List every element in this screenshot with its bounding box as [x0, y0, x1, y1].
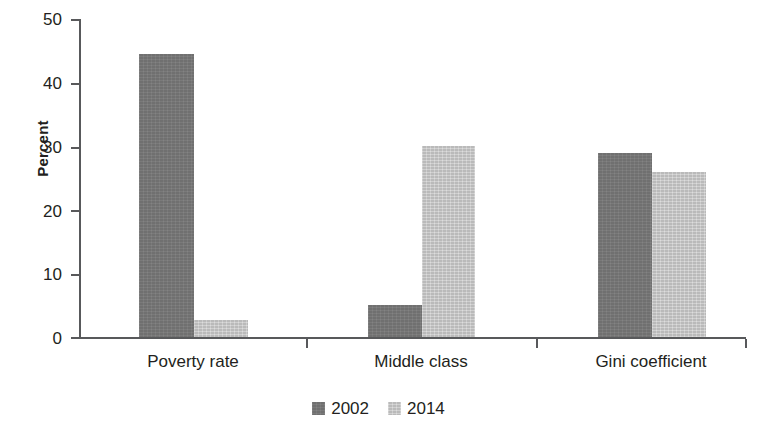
legend: 2002 2014: [0, 400, 757, 417]
x-category-label-poverty-rate: Poverty rate: [113, 352, 273, 372]
plot-area: [0, 0, 757, 337]
bar-middle-class-2002: [368, 305, 422, 337]
legend-swatch-icon-2014: [388, 402, 401, 415]
x-tick-mark-group-3: [745, 339, 747, 348]
legend-label-2002: 2002: [331, 400, 369, 417]
x-tick-mark-group-1: [306, 339, 308, 348]
legend-item-2002: 2002: [312, 400, 369, 417]
bar-gini-coefficient-2014: [652, 172, 706, 337]
bar-poverty-rate-2002: [139, 54, 194, 337]
y-tick-mark-0: [71, 337, 79, 339]
x-category-label-gini-coefficient: Gini coefficient: [561, 352, 741, 372]
bar-chart: Percent 50 40 30 20 10 0 Poverty rate Mi…: [0, 0, 757, 429]
bar-poverty-rate-2014: [194, 320, 248, 337]
legend-swatch-icon-2002: [312, 402, 325, 415]
legend-item-2014: 2014: [388, 400, 445, 417]
bar-middle-class-2014: [422, 146, 475, 337]
x-category-label-middle-class: Middle class: [341, 352, 501, 372]
x-tick-mark-group-2: [536, 339, 538, 348]
bar-gini-coefficient-2002: [598, 153, 652, 337]
x-axis-line: [79, 337, 746, 339]
legend-label-2014: 2014: [407, 400, 445, 417]
